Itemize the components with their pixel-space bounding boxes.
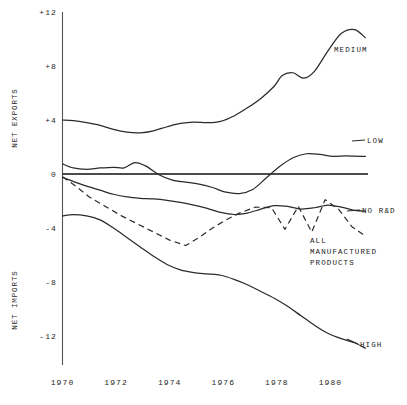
y-axis-tick-labels: +12+8+40-4-8-12 xyxy=(39,8,57,341)
y-tick-label: -4 xyxy=(45,224,57,233)
y-tick-label: 0 xyxy=(51,170,57,179)
y-tick-label: -12 xyxy=(39,332,57,341)
line-chart-canvas: +12+8+40-4-8-12 197019721974197619781980… xyxy=(0,0,407,405)
x-tick-label: 1972 xyxy=(104,378,128,387)
series-label-no-rd: NO R&D xyxy=(362,207,396,215)
y-axis-title-exports: NET EXPORTS xyxy=(11,88,19,147)
x-tick-label: 1980 xyxy=(319,378,343,387)
x-tick-label: 1970 xyxy=(51,378,75,387)
y-tick-label: +4 xyxy=(45,116,57,125)
series-path-high xyxy=(63,215,366,349)
series-path-no-r-d xyxy=(63,177,366,214)
series-label-all-manufactured-line2: MANUFACTURED xyxy=(310,248,377,256)
series-label-all-manufactured-line1: ALL xyxy=(310,237,327,245)
x-tick-label: 1976 xyxy=(211,378,235,387)
series-label-high: HIGH xyxy=(360,341,382,349)
series-path-medium xyxy=(63,29,366,132)
x-tick-label: 1978 xyxy=(265,378,289,387)
x-axis-tick-labels: 197019721974197619781980 xyxy=(51,378,343,387)
series-label-medium: MEDIUM xyxy=(334,46,368,54)
y-tick-label: +8 xyxy=(45,62,57,71)
chart-figure: +12+8+40-4-8-12 197019721974197619781980… xyxy=(0,0,407,405)
series-label-low: LOW xyxy=(367,137,384,145)
low-leader-line xyxy=(352,140,365,141)
y-tick-label: +12 xyxy=(39,8,57,17)
y-axis-title-imports: NET IMPORTS xyxy=(11,270,19,329)
y-tick-label: -8 xyxy=(45,278,57,287)
series-label-all-manufactured-line3: PRODUCTS xyxy=(310,259,355,267)
x-tick-label: 1974 xyxy=(158,378,182,387)
data-series-curves xyxy=(63,29,366,348)
